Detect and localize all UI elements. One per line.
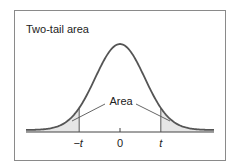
- diagram-title: Two-tail area: [26, 23, 90, 35]
- tick-label-neg-t: −t: [73, 137, 83, 149]
- two-tail-area-diagram: Two-tail area Area −t 0 t: [0, 0, 237, 168]
- tick-label-zero: 0: [117, 137, 123, 149]
- area-annotation: Area: [109, 95, 133, 107]
